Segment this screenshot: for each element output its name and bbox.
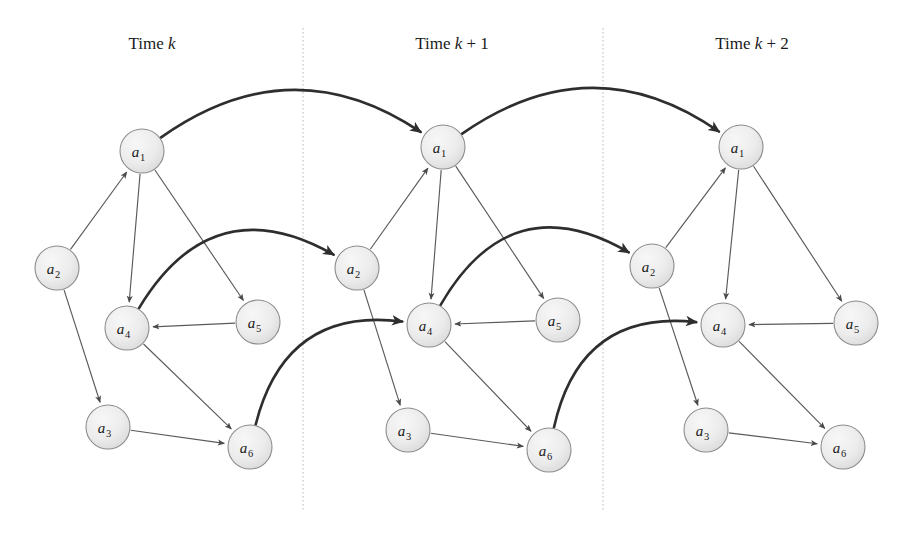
slice-label-slice-k1: Time k + 1	[415, 34, 489, 53]
edge-slice-k1-a1-to-a4	[431, 170, 441, 299]
temporal-edge-a1-a1-k1-k2	[462, 88, 719, 134]
edge-slice-k2-a4-to-a6	[739, 341, 825, 428]
edge-slice-k1-a5-to-a4	[455, 321, 535, 324]
node-slice-k1-a5[interactable]: a5	[536, 298, 580, 342]
node-slice-k1-a2[interactable]: a2	[335, 246, 379, 290]
edge-slice-k1-a2-to-a1	[370, 168, 428, 249]
edge-slice-k2-a1-to-a5	[754, 166, 842, 301]
edge-slice-k-a2-to-a1	[71, 172, 127, 249]
node-slice-k2-a2[interactable]: a2	[630, 244, 674, 288]
temporal-edge-a4-a2-k-k1	[139, 230, 334, 308]
edge-slice-k-a1-to-a5	[155, 170, 243, 300]
node-slice-k1-a6[interactable]: a6	[527, 428, 571, 472]
edge-slice-k-a2-to-a3	[64, 290, 100, 402]
node-slice-k1-a4[interactable]: a4	[407, 303, 451, 347]
edge-slice-k-a1-to-a4	[129, 174, 140, 302]
edge-slice-k-a5-to-a4	[153, 323, 235, 327]
node-slice-k-a6[interactable]: a6	[228, 425, 272, 469]
node-slice-k-a1[interactable]: a1	[120, 129, 164, 173]
edge-slice-k2-a3-to-a6	[729, 433, 817, 444]
node-slice-k2-a4[interactable]: a4	[701, 303, 745, 347]
node-slice-k-a2[interactable]: a2	[35, 246, 79, 290]
temporal-edge-a1-a1-k-k1	[161, 90, 421, 138]
node-slice-k-a5[interactable]: a5	[236, 300, 280, 344]
slice-labels-layer: Time kTime k + 1Time k + 2	[128, 34, 788, 53]
node-slice-k-a4[interactable]: a4	[105, 306, 149, 350]
node-slice-k1-a1[interactable]: a1	[421, 125, 465, 169]
edge-slice-k2-a1-to-a4	[726, 170, 739, 299]
dbn-figure: a1a2a3a4a5a6a1a2a3a4a5a6a1a2a3a4a5a6 Tim…	[0, 0, 906, 535]
edge-slice-k-a3-to-a6	[131, 430, 224, 443]
node-slice-k1-a3[interactable]: a3	[386, 408, 430, 452]
temporal-edge-a4-a2-k1-k2	[441, 227, 629, 305]
diagram-canvas: a1a2a3a4a5a6a1a2a3a4a5a6a1a2a3a4a5a6 Tim…	[0, 0, 906, 535]
edge-slice-k2-a5-to-a4	[749, 323, 833, 324]
edge-slice-k-a4-to-a6	[144, 344, 232, 429]
node-slice-k2-a5[interactable]: a5	[834, 301, 878, 345]
edge-slice-k1-a4-to-a6	[445, 342, 531, 432]
edge-slice-k1-a3-to-a6	[431, 433, 523, 446]
edge-slice-k2-a2-to-a3	[659, 288, 698, 405]
temporal-edge-a6-a4-k-k1	[256, 320, 403, 425]
node-slice-k2-a6[interactable]: a6	[821, 425, 865, 469]
node-slice-k2-a3[interactable]: a3	[684, 408, 728, 452]
edge-slice-k2-a2-to-a1	[666, 168, 726, 248]
nodes-layer: a1a2a3a4a5a6a1a2a3a4a5a6a1a2a3a4a5a6	[35, 125, 878, 472]
slice-label-slice-k: Time k	[128, 34, 176, 53]
node-slice-k2-a1[interactable]: a1	[719, 125, 763, 169]
slice-label-slice-k2: Time k + 2	[715, 34, 789, 53]
node-slice-k-a3[interactable]: a3	[86, 405, 130, 449]
edge-slice-k1-a1-to-a5	[456, 166, 544, 298]
edge-slice-k1-a2-to-a3	[364, 290, 400, 405]
